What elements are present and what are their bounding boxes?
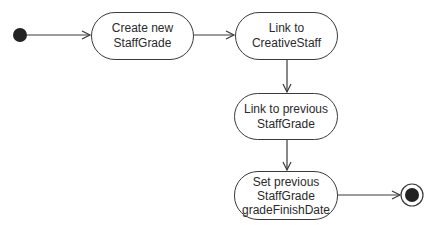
edge-set-finish-date-to-final: [338, 191, 400, 199]
activity-set-previous-grade-finish-date: Set previous StaffGrade gradeFinishDate: [234, 171, 338, 220]
activity-label: Link to previous StaffGrade: [244, 102, 328, 132]
activity-label: Link to CreativeStaff: [252, 21, 321, 51]
activity-label: Create new StaffGrade: [112, 21, 173, 51]
initial-node: [13, 28, 27, 42]
final-node: [401, 184, 423, 206]
edge-link-creativestaff-to-link-previous: [283, 60, 291, 92]
diagram-canvas: [0, 0, 440, 225]
edge-link-previous-to-set-finish-date: [283, 140, 291, 170]
activity-create-new-staffgrade: Create new StaffGrade: [91, 12, 194, 60]
activity-label: Set previous StaffGrade gradeFinishDate: [242, 175, 330, 217]
edge-initial-to-create: [27, 31, 90, 39]
edge-create-to-link-creativestaff: [194, 31, 234, 39]
activity-link-to-previous-staffgrade: Link to previous StaffGrade: [234, 93, 338, 140]
activity-link-to-creativestaff: Link to CreativeStaff: [235, 12, 338, 60]
